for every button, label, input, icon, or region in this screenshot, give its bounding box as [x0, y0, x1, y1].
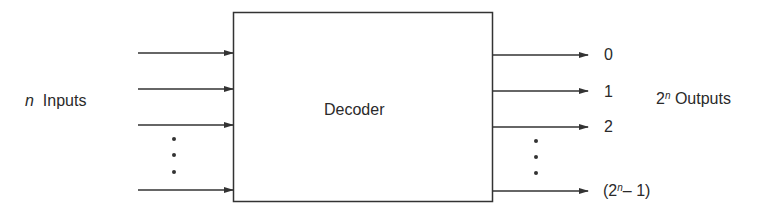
- outputs-label: 2n Outputs: [656, 91, 731, 107]
- decoder-diagram: [0, 0, 779, 218]
- output-label-1: 1: [604, 84, 613, 100]
- decoder-label: Decoder: [324, 102, 384, 118]
- output-label-last: (2n– 1): [603, 183, 650, 199]
- output-ellipsis-dots: [534, 139, 538, 175]
- input-arrows: [138, 53, 233, 190]
- output-label-2: 2: [604, 119, 613, 135]
- input-ellipsis-dots: [172, 137, 176, 174]
- output-label-0: 0: [604, 47, 613, 63]
- output-arrows: [493, 55, 588, 191]
- inputs-label: n Inputs: [25, 93, 86, 109]
